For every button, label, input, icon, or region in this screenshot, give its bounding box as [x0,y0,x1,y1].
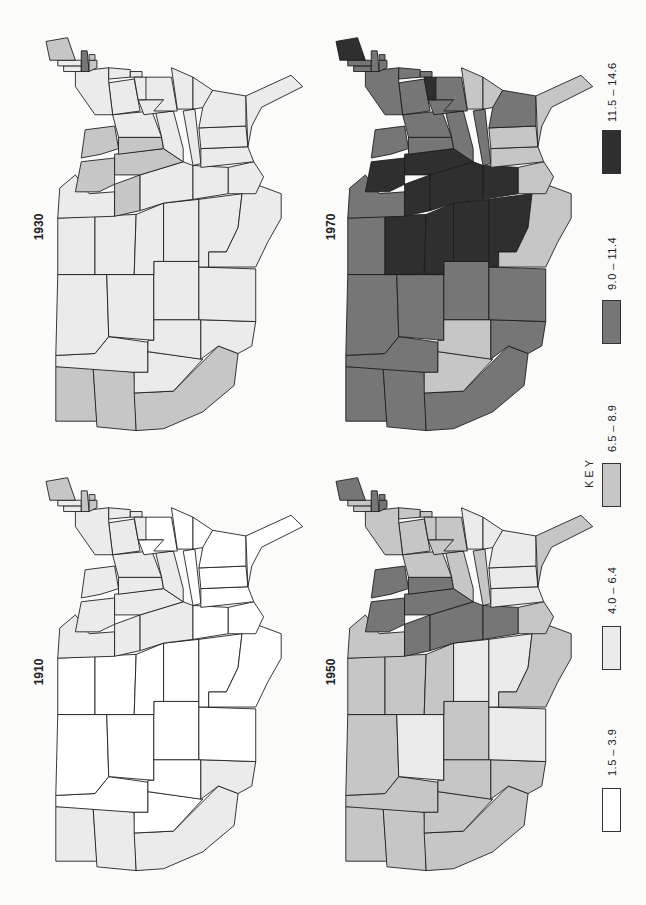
state-ny [365,508,402,555]
state-mi [371,126,408,158]
state-ar [193,606,228,640]
state-nh [348,500,372,506]
state-tn [183,109,201,165]
legend-swatch-5 [602,130,621,174]
state-de [420,512,432,518]
state-wi [75,598,114,632]
state-ia [405,615,430,656]
state-ny [365,68,402,115]
state-al [199,126,248,149]
state-nj [399,508,421,519]
state-ar [193,166,228,200]
state-sd [95,654,136,714]
state-oh [403,111,452,137]
state-de [420,72,432,78]
state-me [46,478,75,501]
state-la [518,162,553,194]
state-la [228,162,263,194]
state-ri [379,495,385,501]
state-or [93,367,136,431]
year-label-1950: 1950 [324,659,338,686]
state-nd [58,656,95,714]
state-me [336,38,365,61]
state-tn [473,109,491,165]
state-nj [109,68,131,79]
state-me [46,38,75,61]
legend-title: KEY [583,457,595,488]
map-1950 [330,480,590,880]
state-co [444,701,489,759]
state-mi [81,566,118,598]
state-wi [365,158,404,192]
state-nm [199,267,256,322]
state-ma [371,491,379,512]
legend-swatch-2 [602,626,621,670]
state-ar [483,166,518,200]
state-nd [348,656,385,714]
legend-label-5: 11.5 – 14.6 [606,62,618,122]
state-al [489,566,538,589]
state-wi [365,598,404,632]
state-vt [64,66,82,72]
state-oh [113,111,162,137]
state-wy [107,715,154,781]
legend: KEY 11.5 – 14.6 9.0 – 11.4 6.5 – 8.9 4.0… [580,0,646,905]
state-or [383,367,426,431]
state-ma [371,51,379,72]
state-or [383,807,426,871]
state-la [518,602,553,634]
state-ny [75,68,112,115]
state-wa [56,367,97,422]
state-me [336,478,365,501]
state-ri [89,55,95,61]
state-nm [489,267,546,322]
state-co [154,261,199,319]
state-wa [346,367,387,422]
state-wy [397,275,444,341]
state-ar [483,606,518,640]
state-wy [107,275,154,341]
state-nh [58,500,82,506]
map-1930 [40,40,300,440]
state-al [489,126,538,149]
state-ks [164,639,199,701]
state-ny [75,508,112,555]
state-co [154,701,199,759]
state-co [444,261,489,319]
state-wi [75,158,114,192]
state-mt [346,715,399,796]
state-tn [183,549,201,605]
legend-label-4: 9.0 – 11.4 [606,237,618,290]
map-1910 [40,480,300,880]
state-ri [89,495,95,501]
state-mi [371,566,408,598]
state-nd [348,216,385,274]
state-de [130,512,142,518]
state-sd [385,654,426,714]
state-nm [199,707,256,762]
state-ma [81,491,89,512]
state-ks [164,199,199,261]
state-mt [346,275,399,356]
state-fl [246,515,303,586]
year-label-1910: 1910 [32,659,46,686]
state-wa [56,807,97,862]
legend-swatch-3 [602,463,621,507]
state-ia [115,615,140,656]
state-mt [56,715,109,796]
state-wa [346,807,387,862]
state-vt [354,66,372,72]
state-nd [58,216,95,274]
legend-label-3: 6.5 – 8.9 [606,405,618,452]
state-nh [348,60,372,66]
state-fl [246,75,303,146]
legend-label-2: 4.0 – 6.4 [606,567,618,614]
legend-label-1: 1.5 – 3.9 [606,729,618,776]
state-mi [81,126,118,158]
state-vt [354,506,372,512]
state-nh [58,60,82,66]
state-oh [403,551,452,577]
year-label-1970: 1970 [324,214,338,241]
state-mt [56,275,109,356]
state-de [130,72,142,78]
